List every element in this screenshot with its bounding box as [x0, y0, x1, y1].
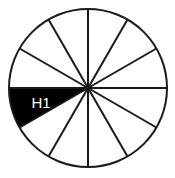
fraction-circle-diagram: H1 [0, 0, 175, 178]
sector-label-h1: H1 [31, 94, 50, 111]
sector-label-group: H1 [31, 94, 50, 111]
fraction-circle-svg: H1 [0, 0, 175, 178]
